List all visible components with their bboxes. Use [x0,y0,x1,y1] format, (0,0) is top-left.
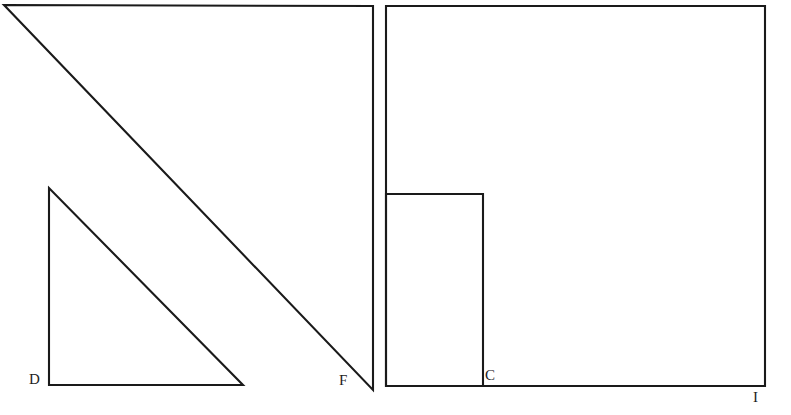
geometry-figure [0,0,791,415]
small-right-triangle [49,188,243,385]
vertex-label-d: D [29,372,40,387]
inner-rectangle [386,194,483,386]
diagram-canvas: D F C I [0,0,791,415]
vertex-label-i: I [753,390,758,405]
large-square [386,6,765,386]
vertex-label-f: F [339,373,347,388]
vertex-label-c: C [485,368,495,383]
